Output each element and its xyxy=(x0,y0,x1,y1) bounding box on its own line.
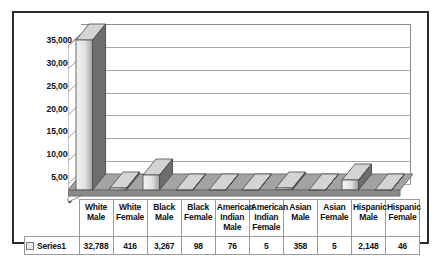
table-value-cell: 2,148 xyxy=(351,237,385,255)
table-value-cell: 46 xyxy=(385,237,419,255)
table-category-header: BlackFemale xyxy=(181,200,215,237)
plot-back-wall xyxy=(81,24,411,184)
table-value-cell: 416 xyxy=(113,237,147,255)
bar-black-female[interactable] xyxy=(175,172,209,196)
bar-hispanic-male[interactable] xyxy=(341,162,375,196)
bar-white-female[interactable] xyxy=(109,170,143,196)
table-row-values: Series132,7884163,2679876535852,14846 xyxy=(25,237,420,255)
chart-frame: 35,00030,00025,00020,00015,00010,0005,00… xyxy=(12,11,429,244)
category-label-line: Hispanic xyxy=(353,202,384,212)
table-value-cell: 358 xyxy=(283,237,317,255)
table-value-cell: 32,788 xyxy=(79,237,113,255)
table-value-cell: 5 xyxy=(249,237,283,255)
bar-white-male[interactable] xyxy=(75,22,109,196)
bar-american-indian-male[interactable] xyxy=(208,172,242,196)
category-label-line: White xyxy=(81,202,112,212)
bar-american-indian-female[interactable] xyxy=(241,172,275,196)
table-category-header: AsianFemale xyxy=(317,200,351,237)
category-label-line: Male xyxy=(353,212,384,222)
table-category-header: BlackMale xyxy=(147,200,181,237)
category-label-line: White xyxy=(115,202,146,212)
table-value-cell: 3,267 xyxy=(147,237,181,255)
table-category-header: AsianMale xyxy=(283,200,317,237)
category-label-line: Hispanic xyxy=(387,202,418,212)
category-label-line: Male xyxy=(217,222,248,232)
gridline xyxy=(81,138,411,139)
gridline xyxy=(81,70,411,71)
table-category-header: WhiteFemale xyxy=(113,200,147,237)
category-label-line: Female xyxy=(115,212,146,222)
table-category-header: WhiteMale xyxy=(79,200,113,237)
table-category-header: HispanicMale xyxy=(351,200,385,237)
category-label-line: Male xyxy=(285,212,316,222)
bar-hispanic-female[interactable] xyxy=(374,172,408,196)
gridline xyxy=(81,93,411,94)
series1-swatch-icon xyxy=(26,242,34,250)
category-label-line: Female xyxy=(251,222,282,232)
table-corner-blank xyxy=(25,200,80,237)
gridline xyxy=(81,47,411,48)
category-label-line: Male xyxy=(81,212,112,222)
table-category-header: AmericanIndianFemale xyxy=(249,200,283,237)
bar-asian-female[interactable] xyxy=(308,172,342,196)
category-label-line: American xyxy=(217,202,248,212)
chart-plot-container: 35,00030,00025,00020,00015,00010,0005,00… xyxy=(14,13,427,242)
category-label-line: American xyxy=(251,202,282,212)
category-label-line: Black xyxy=(183,202,214,212)
category-label-line: Black xyxy=(149,202,180,212)
bar-asian-male[interactable] xyxy=(275,170,309,196)
table-value-cell: 98 xyxy=(181,237,215,255)
bar-black-male[interactable] xyxy=(142,157,176,196)
plot-area: 35,00030,00025,00020,00015,00010,0005,00… xyxy=(24,19,420,199)
gridline xyxy=(81,115,411,116)
table-value-cell: 5 xyxy=(317,237,351,255)
category-label-line: Female xyxy=(319,212,350,222)
table-category-header: AmericanIndianMale xyxy=(215,200,249,237)
category-label-line: Male xyxy=(149,212,180,222)
category-label-line: Female xyxy=(387,212,418,222)
category-label-line: Female xyxy=(183,212,214,222)
table-row-categories: WhiteMaleWhiteFemaleBlackMaleBlackFemale… xyxy=(25,200,420,237)
data-table: WhiteMaleWhiteFemaleBlackMaleBlackFemale… xyxy=(24,199,420,255)
category-label-line: Asian xyxy=(319,202,350,212)
table-value-cell: 76 xyxy=(215,237,249,255)
table-category-header: HispanicFemale xyxy=(385,200,419,237)
series-name-text: Series1 xyxy=(37,241,66,251)
category-label-line: Asian xyxy=(285,202,316,212)
category-label-line: Indian xyxy=(251,212,282,222)
chart-screenshot: 35,00030,00025,00020,00015,00010,0005,00… xyxy=(0,0,441,256)
category-label-line: Indian xyxy=(217,212,248,222)
legend-series-label[interactable]: Series1 xyxy=(25,237,80,255)
